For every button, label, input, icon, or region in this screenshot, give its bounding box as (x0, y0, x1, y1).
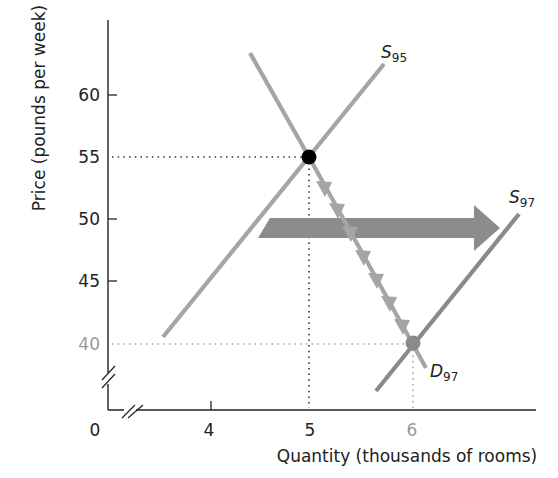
demand-path-d97 (309, 157, 426, 368)
guide-lines (112, 157, 413, 408)
equilibrium-point-new (406, 336, 421, 351)
x-tick-label-highlight: 6 (407, 420, 418, 440)
y-tick-label: 55 (78, 147, 100, 167)
label-s95-sub: 95 (392, 51, 407, 65)
x-tick-labels: 0 4 5 6 (90, 420, 418, 440)
supply-curve-s95 (163, 64, 384, 337)
supply-demand-chart: Price (pounds per week) 60 55 50 45 40 0 (0, 0, 558, 478)
y-tick-labels: 60 55 50 45 40 (78, 85, 100, 354)
equilibrium-point-initial (302, 150, 317, 165)
origin-label: 0 (90, 420, 101, 440)
label-d97-main: D (430, 361, 443, 381)
supply-shift-arrow (258, 205, 500, 251)
supply-curve-s97 (376, 214, 519, 391)
y-tick-label: 50 (78, 209, 100, 229)
x-axis-title: Quantity (thousands of rooms) (277, 446, 537, 466)
label-s95-main: S (381, 42, 392, 62)
y-tick-label: 60 (78, 85, 100, 105)
label-s97: S97 (509, 187, 535, 210)
label-d97: D97 (430, 361, 458, 384)
y-tick-label: 45 (78, 271, 100, 291)
x-tick-label: 5 (305, 420, 316, 440)
label-s97-main: S (509, 187, 520, 207)
y-tick-label-highlight: 40 (78, 334, 100, 354)
label-d97-sub: 97 (443, 370, 458, 384)
demand-curve-d97-upper (250, 53, 309, 157)
label-s97-sub: 97 (520, 196, 535, 210)
x-tick-label: 4 (204, 420, 215, 440)
y-axis-title: Price (pounds per week) (29, 5, 49, 211)
shift-arrow-shape (258, 205, 500, 251)
label-s95: S95 (381, 42, 407, 65)
